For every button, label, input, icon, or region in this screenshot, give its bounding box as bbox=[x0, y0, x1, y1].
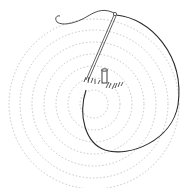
stake-icon bbox=[102, 69, 108, 83]
rope-loop bbox=[83, 15, 179, 152]
rope-tail bbox=[56, 10, 116, 24]
lawn-sketch bbox=[0, 0, 189, 188]
grass-circle bbox=[9, 19, 179, 188]
illustration-canvas bbox=[0, 0, 189, 188]
